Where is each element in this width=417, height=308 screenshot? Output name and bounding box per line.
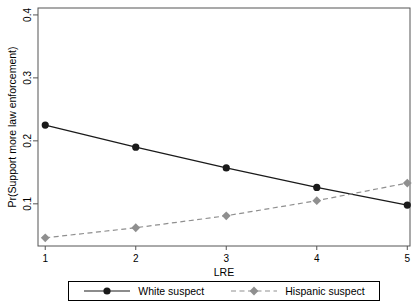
white-suspect-line-marker-icon bbox=[83, 285, 131, 297]
legend-wrap: White suspect Hispanic suspect bbox=[38, 281, 410, 301]
data-point-white-suspect bbox=[42, 122, 49, 129]
y-tick-label: 0.1 bbox=[22, 196, 33, 210]
data-point-white-suspect bbox=[132, 144, 139, 151]
data-point-hispanic-suspect bbox=[222, 211, 231, 220]
y-axis-title: Pr(Support more law enforcement) bbox=[6, 46, 18, 207]
data-point-white-suspect bbox=[223, 164, 230, 171]
y-tick-label: 0.2 bbox=[22, 133, 33, 147]
data-point-hispanic-suspect bbox=[41, 233, 50, 242]
legend-key-marker-white-suspect bbox=[104, 287, 111, 294]
legend-label-white-suspect: White suspect bbox=[138, 285, 204, 297]
data-point-white-suspect bbox=[313, 184, 320, 191]
chart-figure: 0.10.20.30.412345LREPr(Support more law … bbox=[0, 0, 417, 308]
legend: White suspect Hispanic suspect bbox=[68, 281, 379, 301]
x-tick-label: 2 bbox=[133, 253, 139, 264]
x-axis-title: LRE bbox=[214, 266, 234, 278]
legend-label-hispanic-suspect: Hispanic suspect bbox=[285, 285, 364, 297]
x-tick-label: 4 bbox=[314, 253, 320, 264]
y-tick-label: 0.3 bbox=[22, 71, 33, 85]
x-tick-label: 1 bbox=[42, 253, 48, 264]
hispanic-suspect-line-marker-icon bbox=[230, 285, 278, 297]
data-point-hispanic-suspect bbox=[131, 223, 140, 232]
legend-entry-hispanic-suspect: Hispanic suspect bbox=[230, 285, 364, 297]
data-point-white-suspect bbox=[404, 201, 411, 208]
legend-key-marker-hispanic-suspect bbox=[250, 287, 259, 296]
plot-frame bbox=[38, 8, 410, 246]
y-tick-label: 0.4 bbox=[22, 8, 33, 22]
legend-entry-white-suspect: White suspect bbox=[83, 285, 204, 297]
data-point-hispanic-suspect bbox=[312, 196, 321, 205]
x-tick-label: 5 bbox=[405, 253, 411, 264]
series-line-hispanic-suspect bbox=[45, 183, 407, 238]
plot-area: 0.10.20.30.412345LREPr(Support more law … bbox=[0, 0, 417, 308]
x-tick-label: 3 bbox=[223, 253, 229, 264]
